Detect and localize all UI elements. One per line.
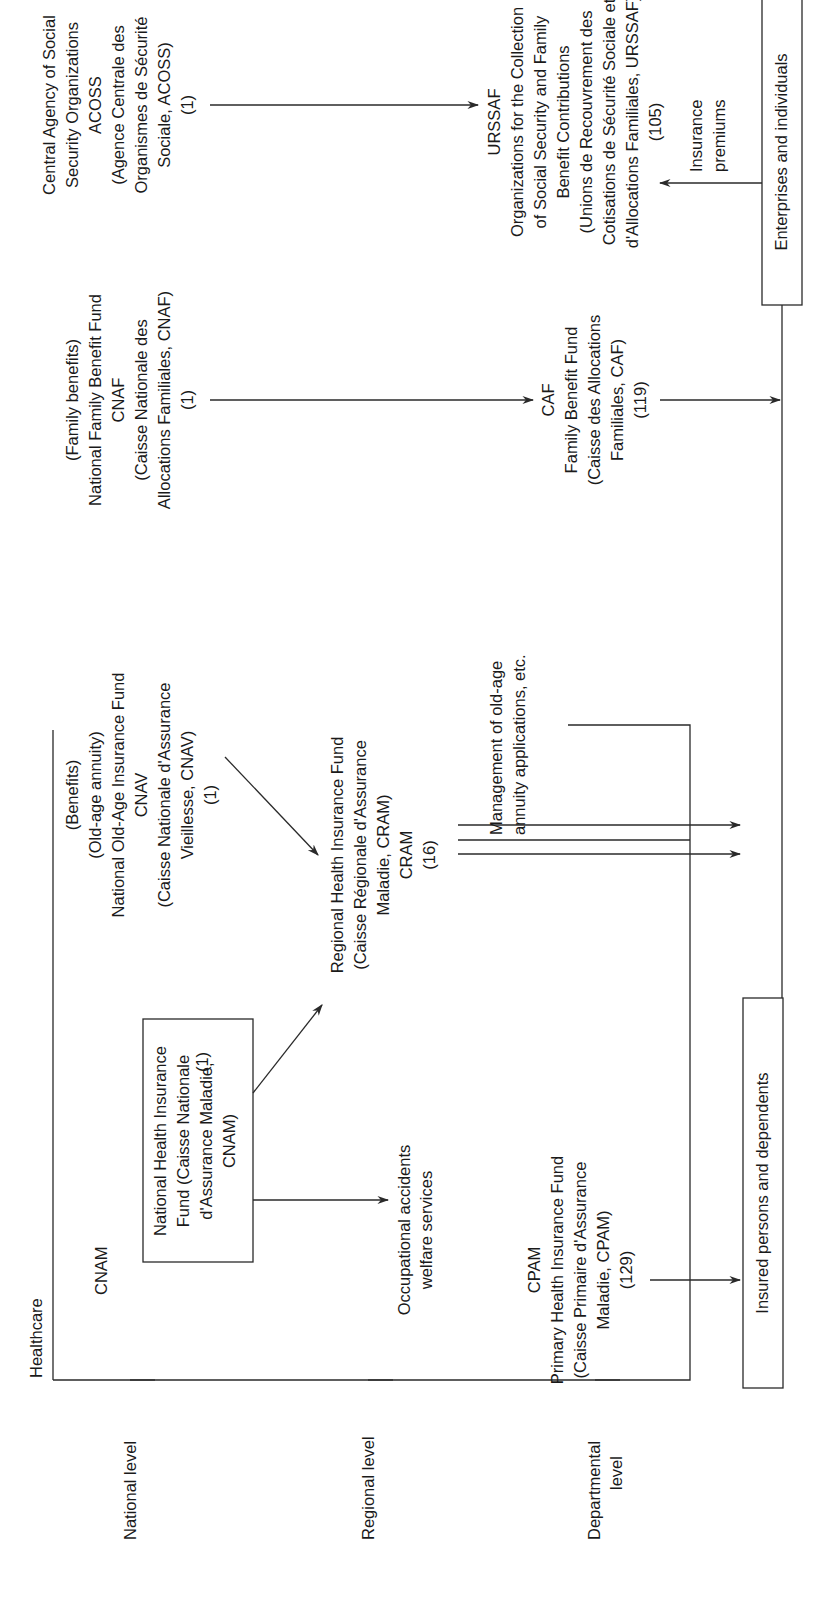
cnam-box-line4: CNAM) — [220, 1114, 238, 1168]
urssaf-line8: (105) — [646, 103, 664, 142]
old-age-mgmt-line2: annuity applications, etc. — [510, 654, 528, 835]
cnav-line4: CNAV — [132, 773, 150, 818]
insurance-premiums-line1: Insurance — [687, 100, 705, 172]
healthcare-title: Healthcare — [27, 1298, 45, 1378]
caf-line1: CAF — [539, 384, 557, 417]
urssaf-line3: of Social Security and Family — [531, 15, 549, 229]
acoss-line1: Central Agency of Social — [40, 15, 58, 195]
cnav-line5: (Caisse Nationale d'Assurance — [155, 682, 173, 907]
cnam-label: CNAM — [92, 1246, 110, 1295]
acoss-line3: ACOSS — [86, 76, 104, 134]
cram-line1: Regional Health Insurance Fund — [328, 737, 346, 974]
diagram-stage: National level Regional level Department… — [0, 0, 823, 1600]
occupational-line2: welfare services — [417, 1171, 435, 1290]
urssaf-line7: d'Allocations Familiales, URSSAF) — [623, 0, 641, 248]
cnav-line6: Vieillesse, CNAV) — [178, 731, 196, 860]
cnaf-line2: National Family Benefit Fund — [86, 294, 104, 506]
cnav-block: (Benefits) (Old-age annuity) National Ol… — [63, 673, 318, 918]
cnam-box-line1: National Health Insurance — [151, 1046, 169, 1236]
arrow-cnav-to-cram — [225, 757, 318, 855]
urssaf-line6: Cotisations de Sécurité Sociale et — [600, 0, 618, 245]
acoss-block: Central Agency of Social Security Organi… — [40, 15, 478, 195]
acoss-line5: Organismes de Sécurité — [132, 17, 150, 194]
occupational-line1: Occupational accidents — [395, 1145, 413, 1316]
level-labels: National level Regional level Department… — [121, 1380, 625, 1540]
cnaf-line5: Allocations Familiales, CNAF) — [155, 291, 173, 509]
caf-line2: Family Benefit Fund — [562, 327, 580, 474]
arrow-cnam-to-cram — [253, 1005, 322, 1093]
cnav-line1: (Benefits) — [63, 760, 81, 831]
cram-line3: Maladie, CRAM) — [374, 794, 392, 915]
acoss-line7: (1) — [178, 95, 196, 115]
urssaf-line4: Benefit Contributions — [554, 45, 572, 198]
acoss-line4: (Agence Centrale des — [109, 25, 127, 185]
acoss-line2: Security Organizations — [63, 22, 81, 188]
urssaf-line2: Organizations for the Collection — [508, 7, 526, 237]
cnav-line7: (1) — [201, 785, 219, 805]
insured-persons-label: Insured persons and dependents — [753, 1072, 771, 1313]
cnaf-line6: (1) — [178, 390, 196, 410]
social-security-org-diagram: National level Regional level Department… — [0, 0, 823, 1600]
cpam-line1: CPAM — [525, 1247, 543, 1293]
cnaf-line4: (Caisse Nationale des — [132, 319, 150, 480]
cram-line5: (16) — [420, 840, 438, 869]
level-departmental-label-2: level — [607, 1456, 625, 1490]
cnaf-line3: CNAF — [109, 378, 127, 423]
cnam-box-line3: d'Assurance Maladie, — [197, 1062, 215, 1219]
cnaf-line1: (Family benefits) — [63, 339, 81, 461]
level-regional-label: Regional level — [359, 1436, 377, 1540]
level-national-label: National level — [121, 1441, 139, 1540]
caf-block: CAF Family Benefit Fund (Caisse des Allo… — [539, 315, 780, 486]
caf-line3: (Caisse des Allocations — [585, 315, 603, 486]
cpam-line3: (Caisse Primaire d'Assurance — [571, 1162, 589, 1379]
cnav-line3: National Old-Age Insurance Fund — [109, 673, 127, 918]
cpam-line5: (129) — [617, 1251, 635, 1290]
urssaf-line5: (Unions de Recouvrement des — [577, 11, 595, 234]
old-age-mgmt-line1: Management of old-age — [487, 661, 505, 835]
level-departmental-label: Departmental — [585, 1441, 603, 1540]
cram-line2: (Caisse Régionale d'Assurance — [351, 740, 369, 970]
insurance-premiums-line2: premiums — [710, 100, 728, 172]
cnav-line2: (Old-age annuity) — [86, 731, 104, 858]
cpam-line2: Primary Health Insurance Fund — [548, 1156, 566, 1384]
acoss-line6: Sociale, ACOSS) — [155, 42, 173, 168]
cnam-box-line2: Fund (Caisse Nationale — [174, 1055, 192, 1227]
urssaf-block: URSSAF Organizations for the Collection … — [485, 0, 664, 248]
urssaf-line1: URSSAF — [485, 89, 503, 156]
cnam-count: (1) — [193, 1052, 211, 1072]
cram-line4: CRAM — [397, 831, 415, 880]
caf-line5: (119) — [631, 381, 649, 418]
cnaf-block: (Family benefits) National Family Benefi… — [63, 291, 533, 509]
caf-line4: Familiales, CAF) — [608, 339, 626, 461]
cpam-line4: Maladie, CPAM) — [594, 1211, 612, 1330]
enterprises-label: Enterprises and individuals — [772, 53, 790, 250]
